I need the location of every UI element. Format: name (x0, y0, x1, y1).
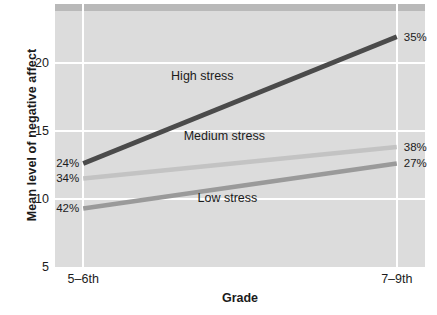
data-label-medium-stress-left: 34% (37, 172, 79, 184)
y-tick-label-20: 20 (3, 56, 49, 70)
data-label-low-stress-left: 42% (37, 202, 79, 214)
series-label-high-stress: High stress (171, 69, 234, 83)
data-label-high-stress-left: 24% (37, 157, 79, 169)
negative-affect-line-chart: Mean level of negative affect 20 15 10 5… (0, 0, 437, 315)
y-tick-label-15: 15 (3, 124, 49, 138)
high-stress-line (83, 37, 397, 164)
plot-area: High stress Medium stress Low stress (55, 4, 425, 267)
series-label-low-stress: Low stress (198, 191, 258, 205)
x-axis-title: Grade (55, 291, 425, 305)
medium-stress-line (83, 147, 397, 178)
data-label-low-stress-right: 27% (404, 157, 427, 169)
x-tick-label-left: 5–6th (68, 272, 99, 286)
x-tick-label-right: 7–9th (381, 272, 412, 286)
data-label-medium-stress-right: 38% (404, 141, 427, 153)
y-tick-label-5: 5 (3, 260, 49, 274)
data-label-high-stress-right: 35% (404, 31, 427, 43)
series-label-medium-stress: Medium stress (184, 129, 265, 143)
